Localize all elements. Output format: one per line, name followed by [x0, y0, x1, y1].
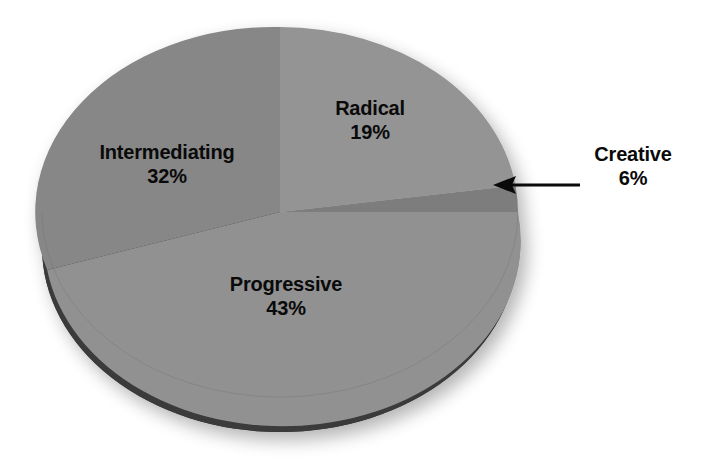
pie-chart-canvas — [0, 0, 704, 459]
pie-label-progressive: Progressive 43% — [196, 272, 376, 321]
pie-label-progressive-name: Progressive — [196, 272, 376, 296]
pie-label-radical: Radical 19% — [300, 96, 440, 145]
pie-label-radical-name: Radical — [300, 96, 440, 120]
pie-label-creative: Creative 6% — [568, 142, 698, 191]
pie-label-creative-value: 6% — [568, 166, 698, 190]
pie-body — [35, 27, 521, 432]
pie-label-intermediating-value: 32% — [62, 164, 272, 188]
pie-label-progressive-value: 43% — [196, 296, 376, 320]
pie-top-face — [35, 27, 521, 426]
pie-label-intermediating: Intermediating 32% — [62, 140, 272, 189]
pie-label-intermediating-name: Intermediating — [62, 140, 272, 164]
pie-label-creative-name: Creative — [568, 142, 698, 166]
pie-chart: Radical 19% Intermediating 32% Progressi… — [0, 0, 704, 459]
pie-label-radical-value: 19% — [300, 120, 440, 144]
